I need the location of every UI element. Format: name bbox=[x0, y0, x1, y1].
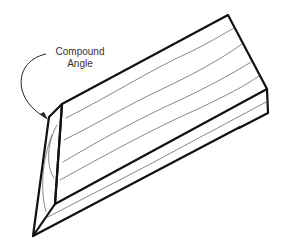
compound-angle-label: Compound Angle bbox=[50, 46, 110, 70]
leader-arrow-line bbox=[21, 54, 46, 118]
board-top-face-outline bbox=[55, 15, 267, 204]
side-grain-line bbox=[46, 101, 268, 218]
label-line-1: Compound bbox=[50, 46, 110, 58]
wood-grain-line bbox=[60, 76, 259, 180]
label-line-2: Angle bbox=[50, 58, 110, 70]
wood-grain-line bbox=[66, 28, 234, 118]
bevel-grain-line bbox=[49, 125, 57, 178]
leader-arrow-head bbox=[40, 112, 48, 120]
board-front-edge bbox=[55, 104, 62, 204]
board-bottom-edge bbox=[33, 127, 240, 236]
board-diagram bbox=[0, 0, 281, 250]
